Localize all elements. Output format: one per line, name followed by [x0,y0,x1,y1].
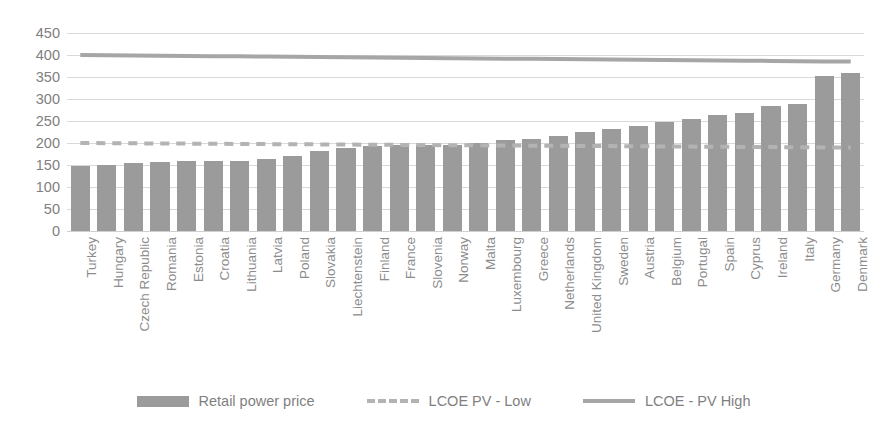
x-axis-category-label: Croatia [218,237,232,281]
series-line-lcoe-pv-low [80,143,850,148]
x-axis-category-label: France [404,237,418,279]
solid-line-icon [583,399,635,403]
x-axis-category-label: Italy [803,237,817,262]
x-axis-category-label: Germany [829,237,843,293]
legend-label: Retail power price [199,394,315,409]
legend-label: LCOE PV - Low [429,394,531,409]
legend-item-lcoe-pv-high[interactable]: LCOE - PV High [583,394,751,409]
x-axis-line [67,231,864,232]
y-axis-tick-label: 350 [16,70,60,85]
chart-container: 450400350300250200150100500 TurkeyHungar… [0,0,887,431]
y-axis-tick-label: 100 [16,180,60,195]
x-axis-category-label: United Kingdom [590,237,604,333]
legend-label: LCOE - PV High [645,394,751,409]
legend-item-lcoe-pv-low[interactable]: LCOE PV - Low [367,394,531,409]
x-axis-category-label: Hungary [112,237,126,288]
x-axis-category-label: Sweden [617,237,631,286]
x-axis-category-label: Liechtenstein [351,237,365,317]
x-axis-category-label: Czech Republic [138,237,152,332]
y-axis-tick-label: 450 [16,26,60,41]
x-axis-category-label: Luxembourg [510,237,524,312]
x-axis-category-label: Estonia [192,237,206,282]
x-axis-category-label: Norway [457,237,471,283]
x-axis-category-label: Finland [378,237,392,281]
y-axis-tick-label: 150 [16,158,60,173]
chart-legend: Retail power price LCOE PV - Low LCOE - … [0,386,887,416]
x-axis-category-label: Poland [298,237,312,279]
x-axis-category-label: Denmark [856,237,870,292]
x-axis-category-label: Turkey [85,237,99,278]
x-axis-category-label: Latvia [271,237,285,273]
dashed-line-icon [367,399,419,403]
plot-area [67,33,864,231]
x-axis-category-label: Portugal [696,237,710,287]
x-axis-category-label: Slovakia [324,237,338,288]
line-series-overlay [67,33,864,231]
x-axis-category-label: Romania [165,237,179,291]
bar-swatch-icon [137,396,189,407]
x-axis-category-label: Ireland [776,237,790,278]
x-axis-category-label: Belgium [670,237,684,286]
x-axis-category-labels: TurkeyHungaryCzech RepublicRomaniaEstoni… [67,233,864,373]
y-axis-tick-label: 200 [16,136,60,151]
x-axis-category-label: Lithuania [245,237,259,292]
y-axis: 450400350300250200150100500 [8,33,60,231]
y-axis-tick-label: 0 [16,224,60,239]
y-axis-tick-label: 250 [16,114,60,129]
x-axis-category-label: Netherlands [563,237,577,310]
series-line-lcoe-pv-high [80,55,850,62]
x-axis-category-label: Spain [723,237,737,272]
y-axis-tick-label: 400 [16,48,60,63]
x-axis-category-label: Austria [643,237,657,279]
y-axis-tick-label: 50 [16,202,60,217]
x-axis-category-label: Greece [537,237,551,281]
x-axis-category-label: Malta [484,237,498,270]
x-axis-category-label: Slovenia [431,237,445,289]
legend-item-retail-power-price[interactable]: Retail power price [137,394,315,409]
y-axis-tick-label: 300 [16,92,60,107]
x-axis-category-label: Cyprus [749,237,763,280]
